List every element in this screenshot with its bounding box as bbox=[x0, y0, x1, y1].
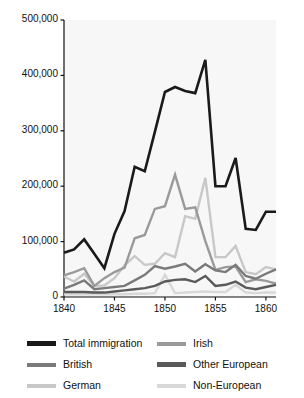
legend-label: British bbox=[63, 359, 92, 370]
legend-label: Total immigration bbox=[63, 338, 142, 349]
legend-item[interactable]: German bbox=[27, 375, 142, 396]
legend-swatch-icon bbox=[27, 384, 56, 388]
legend-swatch-icon bbox=[27, 341, 56, 346]
legend-label: Other European bbox=[193, 359, 268, 370]
series-line-total-immigration bbox=[64, 60, 276, 268]
legend-swatch-icon bbox=[27, 363, 56, 367]
y-axis-tick-label: 100,000 bbox=[0, 235, 58, 246]
legend-swatch-icon bbox=[157, 342, 186, 346]
legend-item[interactable]: British bbox=[27, 354, 142, 375]
legend-swatch-icon bbox=[157, 384, 186, 388]
legend-label: Non-European bbox=[193, 380, 261, 391]
legend-column: IrishOther EuropeanNon-European bbox=[157, 333, 268, 396]
y-axis-tick-label: 500,000 bbox=[0, 13, 58, 24]
immigration-line-chart: 0100,000200,000300,000400,000500,000 184… bbox=[0, 0, 304, 398]
legend-column: Total immigrationBritishGerman bbox=[27, 333, 142, 396]
x-axis-tick-label: 1850 bbox=[145, 303, 185, 314]
x-axis-tick-label: 1855 bbox=[195, 303, 235, 314]
y-axis-tick-label: 0 bbox=[0, 290, 58, 301]
legend-item[interactable]: Irish bbox=[157, 333, 268, 354]
legend-label: German bbox=[63, 380, 101, 391]
legend-swatch-icon bbox=[157, 362, 186, 367]
legend-item[interactable]: Total immigration bbox=[27, 333, 142, 354]
y-axis-tick-label: 300,000 bbox=[0, 124, 58, 135]
y-axis-tick-label: 200,000 bbox=[0, 179, 58, 190]
legend-item[interactable]: Non-European bbox=[157, 375, 268, 396]
x-axis-tick-label: 1845 bbox=[94, 303, 134, 314]
y-axis-tick-label: 400,000 bbox=[0, 68, 58, 79]
x-axis-tick-label: 1840 bbox=[44, 303, 84, 314]
chart-legend: Total immigrationBritishGermanIrishOther… bbox=[0, 333, 304, 398]
legend-item[interactable]: Other European bbox=[157, 354, 268, 375]
x-axis-tick-label: 1860 bbox=[246, 303, 286, 314]
legend-label: Irish bbox=[193, 338, 213, 349]
